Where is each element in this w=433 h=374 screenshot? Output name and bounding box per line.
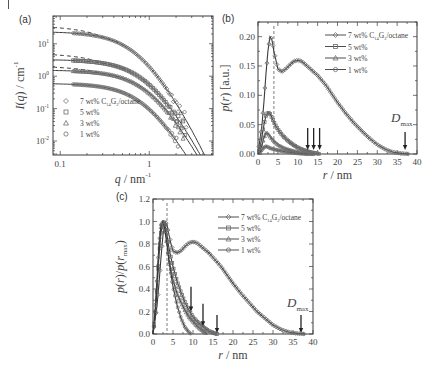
arrow-head-icon: [311, 145, 315, 150]
x-tick-label: 0: [151, 337, 156, 347]
dmax-annotation: Dmax: [390, 110, 413, 128]
legend-marker: [64, 110, 68, 114]
legend-c: 7 wt% C14G2/octane5 wt%3 wt%1 wt%: [218, 213, 302, 255]
panel-b-pair-distance-distribution: (b)05101520253035400.000.050.100.150.20r…: [218, 13, 422, 182]
x-tick-label: 25: [353, 157, 363, 167]
x-axis-title: r / nm: [323, 168, 353, 182]
legend-label: 5 wt%: [348, 43, 367, 52]
legend-label: 3 wt%: [348, 54, 367, 63]
legend-marker: [64, 132, 68, 136]
y-tick-label: 10-1: [36, 103, 49, 114]
panel-c-normalized-pddf: (c)05101520253035400.00.20.40.60.81.01.2…: [113, 191, 318, 362]
legend-label: 1 wt%: [348, 66, 367, 75]
x-tick-label: 25: [249, 337, 259, 347]
legend-label: 3 wt%: [80, 119, 99, 128]
y-tick-label: 0.05: [239, 120, 255, 130]
panel-label-a: (a): [19, 14, 31, 25]
x-tick-label: 35: [289, 337, 299, 347]
y-tick-label: 0.15: [239, 61, 255, 71]
y-axis-title: p(r) [a.u.]: [218, 65, 232, 113]
arrow-head-icon: [317, 145, 321, 150]
panel-label: (b): [222, 13, 234, 24]
arrow-head-icon: [403, 145, 407, 150]
legend-a: 7 wt% C14G2/octane5 wt%3 wt%1 wt%: [64, 97, 141, 139]
legend-label: 1 wt%: [80, 130, 99, 139]
legend-label: 5 wt%: [241, 224, 260, 233]
x-tick-label: 1: [147, 159, 152, 169]
fit-curve: [53, 71, 213, 184]
x-tick-label: 15: [313, 157, 323, 167]
y-tick-label: 0.20: [239, 32, 255, 42]
x-tick-label: 10: [189, 337, 199, 347]
fit-curve: [53, 60, 213, 178]
panel-a-saxs-intensity: (a)0.1110110010-110-2q / nm-1I(q) / cm-1…: [12, 14, 213, 200]
x-tick-label: 30: [269, 337, 279, 347]
x-tick-label: 35: [393, 157, 403, 167]
x-tick-label: 5: [171, 337, 176, 347]
y-tick-label: 0.4: [139, 284, 151, 294]
legend-label: 7 wt% C14G2/octane: [348, 31, 409, 41]
x-tick-label: 20: [333, 157, 343, 167]
x-tick-label: 40: [309, 337, 319, 347]
x-tick-label: 20: [229, 337, 239, 347]
legend-marker: [64, 99, 69, 104]
y-tick-label: 0.8: [139, 239, 151, 249]
panel-label: (c): [116, 191, 128, 202]
data-marker: [181, 137, 185, 141]
y-tick-label: 0.6: [139, 262, 151, 272]
y-tick-label: 0.00: [239, 149, 255, 159]
x-tick-label: 30: [373, 157, 383, 167]
pddf-curve: [153, 222, 191, 335]
y-tick-label: 101: [38, 38, 50, 49]
y-tick-label: 1.2: [139, 194, 150, 204]
legend-label: 7 wt% C14G2/octane: [80, 97, 141, 107]
figure: (a)0.1110110010-110-2q / nm-1I(q) / cm-1…: [0, 0, 433, 374]
pddf-curve: [258, 37, 409, 154]
data-marker: [176, 145, 179, 148]
x-tick-label: 10: [293, 157, 303, 167]
legend-label: 7 wt% C14G2/octane: [241, 213, 302, 223]
x-tick-label: 0: [256, 157, 261, 167]
y-tick-label: 0.10: [239, 90, 255, 100]
y-tick-label: 10-2: [36, 135, 49, 146]
legend-label: 3 wt%: [241, 235, 260, 244]
dmax-annotation: Dmax: [286, 295, 309, 313]
data-marker: [180, 124, 184, 128]
y-tick-label: 0.2: [139, 307, 150, 317]
x-tick-label: 5: [276, 157, 281, 167]
y-axis-title: I(q) / cm-1: [12, 61, 27, 110]
legend-label: 1 wt%: [241, 246, 260, 255]
y-tick-label: 0.0: [139, 329, 151, 339]
x-axis-title: q / nm-1: [115, 171, 152, 186]
y-tick-label: 100: [38, 70, 50, 81]
y-tick-label: 1.0: [139, 217, 151, 227]
y-axis-title: p(r)/p(rmax): [113, 240, 129, 294]
x-tick-label: 0.1: [55, 159, 66, 169]
plot-frame: [53, 16, 213, 155]
x-axis-title: r / nm: [218, 348, 248, 362]
legend-marker: [64, 121, 69, 126]
legend-label: 5 wt%: [80, 108, 99, 117]
x-tick-label: 40: [413, 157, 423, 167]
legend-b: 7 wt% C14G2/octane5 wt%3 wt%1 wt%: [325, 31, 409, 75]
x-tick-label: 15: [209, 337, 219, 347]
